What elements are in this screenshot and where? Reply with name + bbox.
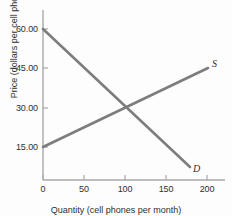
x-tick-label-200: 200 bbox=[200, 184, 215, 194]
supply-curve bbox=[43, 68, 208, 147]
y-tick-label-15: 15.00 bbox=[2, 142, 38, 152]
y-axis-title: Price (dollars per cell phone) bbox=[9, 0, 19, 111]
x-tick-label-0: 0 bbox=[41, 184, 46, 194]
y-tick-label-30: 30.00 bbox=[2, 103, 38, 113]
x-axis-title: Quantity (cell phones per month) bbox=[0, 205, 232, 215]
demand-curve bbox=[43, 29, 190, 167]
y-tick-label-45: 45.00 bbox=[2, 63, 38, 73]
x-tick-label-150: 150 bbox=[159, 184, 174, 194]
demand-curve-label: D bbox=[193, 163, 200, 174]
x-tick-label-50: 50 bbox=[79, 184, 89, 194]
x-tick-label-100: 100 bbox=[118, 184, 133, 194]
y-tick-label-60: 60.00 bbox=[2, 24, 38, 34]
supply-curve-label: S bbox=[212, 58, 217, 69]
supply-demand-chart: 60.00 45.00 30.00 15.00 0 50 100 150 200… bbox=[0, 0, 232, 216]
